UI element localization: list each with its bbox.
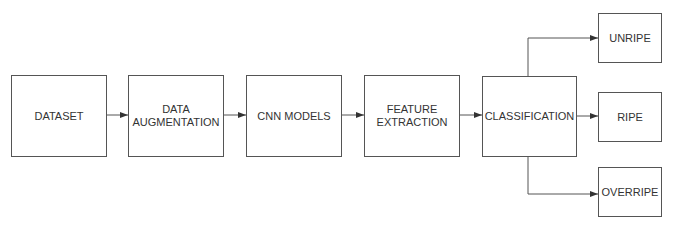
- node-classification: CLASSIFICATION: [482, 76, 577, 157]
- node-label: DATASET: [34, 110, 83, 123]
- node-label: RIPE: [617, 111, 643, 124]
- node-cnn-models: CNN MODELS: [246, 75, 342, 157]
- node-label: UNRIPE: [609, 32, 651, 45]
- node-data-augmentation: DATA AUGMENTATION: [128, 75, 224, 157]
- node-label: DATA AUGMENTATION: [133, 103, 220, 129]
- node-unripe: UNRIPE: [598, 13, 662, 63]
- arrow-classification-unripe: [528, 38, 598, 76]
- diagram: DATASET DATA AUGMENTATION CNN MODELS FEA…: [0, 0, 678, 225]
- node-label: CNN MODELS: [257, 110, 330, 123]
- node-feature-extraction: FEATURE EXTRACTION: [364, 75, 460, 157]
- node-label: FEATURE EXTRACTION: [377, 103, 448, 129]
- node-dataset: DATASET: [11, 75, 107, 157]
- node-overripe: OVERRIPE: [598, 167, 662, 217]
- arrow-classification-overripe: [528, 156, 598, 194]
- node-ripe: RIPE: [598, 92, 662, 142]
- node-label: OVERRIPE: [602, 186, 659, 199]
- node-label: CLASSIFICATION: [485, 110, 575, 123]
